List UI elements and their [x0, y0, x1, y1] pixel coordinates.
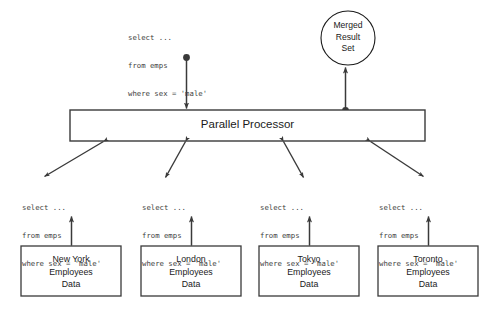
data-store-1-line-1: New York — [21, 253, 121, 266]
branch-query-2-line-2: from emps — [142, 231, 221, 240]
branch-query-3-line-1: select ... — [260, 203, 339, 212]
input-query-line-3: where sex = 'male' — [128, 89, 207, 98]
data-store-3-line-2: Employees — [259, 266, 359, 279]
processor-branch-arrow-1 — [45, 142, 104, 177]
input-query-text: select ... from emps where sex = 'male' — [128, 14, 207, 117]
data-store-1-line-3: Data — [21, 278, 121, 291]
merged-result-label: Merged Result Set — [321, 20, 375, 55]
parallel-processor-label: Parallel Processor — [70, 118, 425, 130]
merged-result-line-3: Set — [321, 43, 375, 55]
branch-query-1-line-1: select ... — [22, 203, 101, 212]
data-store-label-1: New York Employees Data — [21, 253, 121, 291]
data-store-1-line-2: Employees — [21, 266, 121, 279]
data-store-2-line-3: Data — [141, 278, 241, 291]
branch-query-2-line-1: select ... — [142, 203, 221, 212]
data-store-label-3: Tokyo Employees Data — [259, 253, 359, 291]
diagram-canvas: select ... from emps where sex = 'male' … — [0, 0, 499, 314]
branch-query-4-line-1: select ... — [379, 203, 458, 212]
merged-result-line-2: Result — [321, 32, 375, 44]
merged-result-line-1: Merged — [321, 20, 375, 32]
branch-query-1-line-2: from emps — [22, 231, 101, 240]
branch-query-4-line-2: from emps — [379, 231, 458, 240]
processor-branch-arrow-2 — [166, 142, 186, 178]
data-store-label-4: Toronto Employees Data — [378, 253, 478, 291]
input-query-line-2: from emps — [128, 61, 207, 70]
data-store-4-line-2: Employees — [378, 266, 478, 279]
processor-branch-arrow-3 — [284, 142, 304, 178]
branch-query-3-line-2: from emps — [260, 231, 339, 240]
data-store-3-line-3: Data — [259, 278, 359, 291]
data-store-2-line-1: London — [141, 253, 241, 266]
data-store-label-2: London Employees Data — [141, 253, 241, 291]
processor-branch-arrow-4 — [371, 142, 424, 177]
data-store-3-line-1: Tokyo — [259, 253, 359, 266]
input-query-line-1: select ... — [128, 33, 207, 42]
data-store-4-line-3: Data — [378, 278, 478, 291]
data-store-2-line-2: Employees — [141, 266, 241, 279]
data-store-4-line-1: Toronto — [378, 253, 478, 266]
